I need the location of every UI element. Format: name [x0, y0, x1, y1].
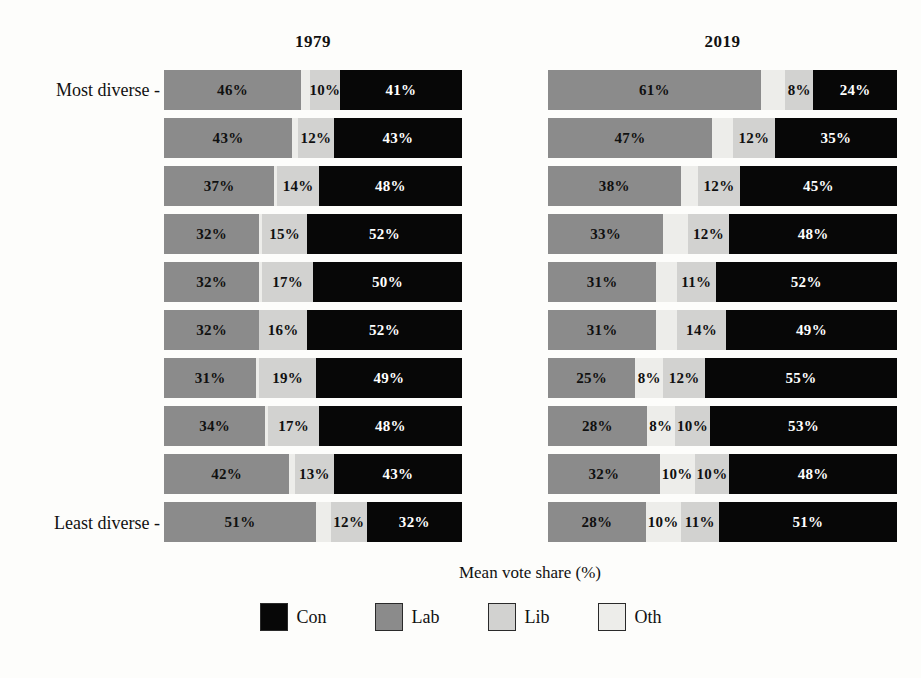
legend-label: Lib [525, 607, 550, 628]
stacked-bar-chart: 1979 2019 Most diverse - Least diverse -… [0, 0, 921, 678]
bar-segment-lab: 28% [548, 502, 646, 542]
bar-segment-lab: 46% [164, 70, 301, 110]
bar-segment-lib: 10% [310, 70, 340, 110]
bar-segment-con: 48% [729, 214, 897, 254]
bar-segment-lib: 17% [262, 262, 313, 302]
bar-segment-lab: 61% [548, 70, 761, 110]
bar-segment-con: 43% [334, 118, 462, 158]
legend-item-lib[interactable]: Lib [488, 603, 550, 631]
bar-segment-con: 52% [307, 310, 462, 350]
bar-segment-lib: 17% [268, 406, 319, 446]
bar-segment-oth: 8% [647, 406, 675, 446]
bar-row: 32%17%50% [164, 262, 462, 302]
bar-row: 34%17%48% [164, 406, 462, 446]
bar-row: 31%11%52% [548, 262, 897, 302]
bar-row: 33%12%48% [548, 214, 897, 254]
bar-segment-lib: 8% [785, 70, 813, 110]
bar-segment-oth [681, 166, 698, 206]
bar-segment-con: 41% [340, 70, 462, 110]
y-axis-tick-least-diverse: Least diverse - [0, 513, 160, 534]
bar-segment-con: 55% [705, 358, 897, 398]
bar-row: 32%16%52% [164, 310, 462, 350]
legend-swatch-oth-icon [598, 603, 626, 631]
bar-segment-oth [656, 262, 677, 302]
bar-segment-con: 49% [316, 358, 462, 398]
bar-segment-lib: 12% [733, 118, 775, 158]
bar-row: 28%8%10%53% [548, 406, 897, 446]
bar-row: 46%10%41% [164, 70, 462, 110]
bar-segment-lab: 32% [164, 214, 259, 254]
bar-row: 32%10%10%48% [548, 454, 897, 494]
bar-row: 61%8%24% [548, 70, 897, 110]
bar-row: 43%12%43% [164, 118, 462, 158]
legend-item-lab[interactable]: Lab [375, 603, 440, 631]
bar-segment-oth [656, 310, 677, 350]
bar-segment-con: 51% [719, 502, 897, 542]
bar-segment-con: 53% [710, 406, 897, 446]
y-axis-tick-most-diverse: Most diverse - [0, 80, 160, 101]
bar-segment-con: 35% [775, 118, 897, 158]
bar-segment-lab: 37% [164, 166, 274, 206]
bar-segment-con: 48% [319, 406, 462, 446]
bar-row: 51%12%32% [164, 502, 462, 542]
bar-segment-lab: 33% [548, 214, 663, 254]
bar-segment-oth [712, 118, 733, 158]
bar-segment-lab: 31% [548, 310, 656, 350]
bar-segment-oth: 10% [646, 502, 681, 542]
bar-segment-lib: 15% [262, 214, 307, 254]
bar-segment-oth: 8% [635, 358, 663, 398]
bar-row: 28%10%11%51% [548, 502, 897, 542]
bar-segment-oth: 10% [660, 454, 695, 494]
bar-segment-lab: 31% [164, 358, 256, 398]
bar-segment-con: 32% [367, 502, 462, 542]
bar-segment-lab: 38% [548, 166, 681, 206]
bar-segment-con: 50% [313, 262, 462, 302]
bar-row: 47%12%35% [548, 118, 897, 158]
legend-label: Oth [635, 607, 662, 628]
bar-segment-con: 52% [716, 262, 897, 302]
bar-segment-lib: 16% [259, 310, 307, 350]
bar-segment-lib: 19% [259, 358, 316, 398]
bar-row: 31%19%49% [164, 358, 462, 398]
bar-segment-lab: 32% [164, 262, 259, 302]
panel-title-1979: 1979 [164, 32, 462, 52]
bar-segment-lib: 12% [331, 502, 367, 542]
bar-segment-oth [301, 70, 310, 110]
panel-title-2019: 2019 [548, 32, 897, 52]
bar-segment-lib: 12% [298, 118, 334, 158]
bar-segment-con: 45% [740, 166, 897, 206]
bar-segment-oth [761, 70, 785, 110]
bar-row: 37%14%48% [164, 166, 462, 206]
bar-segment-con: 24% [813, 70, 897, 110]
bar-segment-con: 49% [726, 310, 897, 350]
bar-segment-lib: 13% [295, 454, 334, 494]
bar-segment-lib: 14% [677, 310, 726, 350]
bar-segment-lib: 11% [677, 262, 715, 302]
legend-swatch-lab-icon [375, 603, 403, 631]
bar-segment-lib: 12% [663, 358, 705, 398]
legend-item-con[interactable]: Con [260, 603, 327, 631]
bar-segment-lab: 43% [164, 118, 292, 158]
bar-segment-lab: 32% [548, 454, 660, 494]
bar-row: 38%12%45% [548, 166, 897, 206]
bar-segment-oth [663, 214, 687, 254]
legend-label: Con [297, 607, 327, 628]
chart-legend: ConLabLibOth [0, 603, 921, 631]
legend-label: Lab [412, 607, 440, 628]
x-axis-title: Mean vote share (%) [330, 563, 730, 583]
bar-segment-lib: 14% [277, 166, 319, 206]
bar-segment-con: 52% [307, 214, 462, 254]
bar-segment-con: 48% [319, 166, 462, 206]
bar-row: 32%15%52% [164, 214, 462, 254]
legend-item-oth[interactable]: Oth [598, 603, 662, 631]
bar-row: 31%14%49% [548, 310, 897, 350]
bar-row: 25%8%12%55% [548, 358, 897, 398]
bar-segment-lab: 28% [548, 406, 647, 446]
bar-segment-lib: 12% [688, 214, 730, 254]
bar-segment-oth [316, 502, 331, 542]
bar-segment-lab: 42% [164, 454, 289, 494]
bar-segment-lib: 11% [681, 502, 719, 542]
bar-segment-lib: 10% [675, 406, 710, 446]
bar-row: 42%13%43% [164, 454, 462, 494]
bar-segment-lib: 10% [695, 454, 730, 494]
